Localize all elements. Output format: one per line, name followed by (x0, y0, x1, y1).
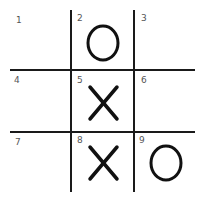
cell-4[interactable]: 4 (10, 71, 70, 131)
cell-number: 7 (15, 138, 21, 147)
cell-9[interactable]: 9 (135, 133, 195, 192)
cell-number: 1 (16, 16, 22, 25)
cell-7[interactable]: 7 (10, 133, 70, 192)
x-mark-icon (86, 83, 122, 123)
cell-number: 6 (141, 76, 147, 85)
cell-3[interactable]: 3 (135, 10, 195, 69)
tic-tac-toe-board: 1 2 3 4 5 6 7 8 9 (0, 0, 204, 198)
cell-number: 8 (77, 136, 83, 145)
cell-number: 5 (77, 76, 83, 85)
cell-number: 2 (77, 14, 83, 23)
x-mark-icon (86, 143, 122, 183)
o-mark-icon (147, 143, 185, 185)
cell-6[interactable]: 6 (135, 71, 195, 131)
cell-1[interactable]: 1 (10, 10, 70, 69)
cell-number: 4 (14, 76, 20, 85)
cell-number: 9 (139, 136, 145, 145)
cell-8[interactable]: 8 (72, 133, 133, 192)
o-mark-icon (84, 22, 122, 64)
cell-2[interactable]: 2 (72, 10, 133, 69)
cell-number: 3 (141, 14, 147, 23)
cell-5[interactable]: 5 (72, 71, 133, 131)
